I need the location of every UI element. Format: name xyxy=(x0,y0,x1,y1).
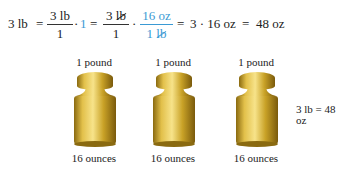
equals-sign: = xyxy=(242,17,249,30)
multiply-dot: · xyxy=(74,17,78,30)
summary-equation: 3 lb = 48 oz xyxy=(296,104,348,126)
weight-1-gold-icon xyxy=(69,70,121,148)
intermediate-step: 3 · 16 oz xyxy=(190,17,236,30)
numerator: 3 lb xyxy=(47,9,73,22)
multiply-dot: · xyxy=(132,17,136,30)
weight-1-bottom-label: 16 ounces xyxy=(59,153,129,164)
equals-sign: = xyxy=(90,17,97,30)
fraction-bar xyxy=(103,24,129,25)
fraction-bar xyxy=(140,24,173,25)
denominator: 1 xyxy=(47,27,73,40)
weight-1-top-label: 1 pound xyxy=(59,57,129,68)
weight-2-gold-icon xyxy=(148,70,200,148)
denominator: 1 lb xyxy=(140,27,173,40)
result: 48 oz xyxy=(256,17,285,30)
numerator: 3 lb xyxy=(103,9,129,22)
weight-2-bottom-label: 16 ounces xyxy=(138,153,208,164)
numerator: 16 oz xyxy=(140,9,173,22)
weight-3-gold-icon xyxy=(231,70,283,148)
cancelled-unit-lb: lb xyxy=(116,9,126,22)
fraction-bar xyxy=(47,24,73,25)
conversion-equation: 3 lb = 3 lb 1 · 1 = 3 lb 1 · 16 oz 1 lb … xyxy=(0,0,348,46)
lhs: 3 lb xyxy=(8,17,28,30)
denominator: 1 xyxy=(103,27,129,40)
fraction-3lb-cancel-over-1: 3 lb 1 xyxy=(103,9,129,40)
weight-2-top-label: 1 pound xyxy=(138,57,208,68)
weight-3-top-label: 1 pound xyxy=(221,57,291,68)
fraction-3lb-over-1: 3 lb 1 xyxy=(47,9,73,40)
weight-3-bottom-label: 16 ounces xyxy=(221,153,291,164)
cancelled-unit-lb: lb xyxy=(156,27,166,40)
equals-sign: = xyxy=(36,17,43,30)
equals-sign: = xyxy=(177,17,184,30)
one-highlight: 1 xyxy=(80,17,87,30)
conversion-factor-16oz-over-1lb: 16 oz 1 lb xyxy=(140,9,173,40)
